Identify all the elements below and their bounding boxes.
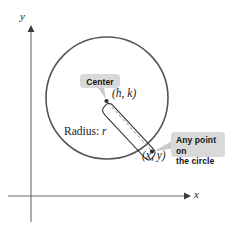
any-point-callout-line2: the circle: [176, 156, 214, 166]
radius-label-text: Radius:: [64, 125, 99, 137]
x-axis-label: x: [194, 189, 199, 200]
center-callout: Center: [80, 74, 120, 88]
center-callout-leader: [98, 88, 106, 100]
callout-leaders-layer: [0, 0, 225, 227]
center-point-label: (h, k): [112, 88, 136, 100]
radius-label: Radius: r: [64, 126, 107, 138]
center-callout-text: Center: [86, 77, 114, 87]
any-point-callout-line1: Any point on: [176, 135, 216, 156]
circle-diagram-figure: y x (h, k) (x, y) Radius: r Center Any p…: [0, 0, 225, 227]
radius-label-variable: r: [102, 125, 106, 137]
any-point-callout: Any point onthe circle: [171, 132, 225, 157]
circle-point-label: (x, y): [142, 150, 166, 162]
y-axis-label: y: [20, 11, 25, 22]
